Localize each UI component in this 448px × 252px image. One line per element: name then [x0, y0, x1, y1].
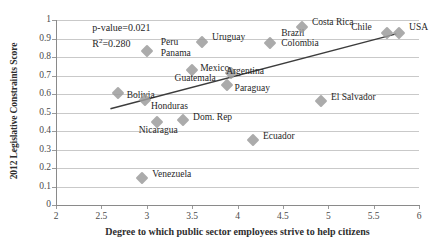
x-tick-label: 2.5 — [86, 211, 116, 221]
y-tick-label: 0.9 — [25, 34, 51, 43]
y-tick-label: 0.5 — [25, 108, 51, 117]
data-point-label: USA — [409, 22, 428, 32]
data-point-label: Panama — [161, 48, 191, 58]
y-tick-label: 0.2 — [25, 163, 51, 172]
gridline — [56, 20, 419, 21]
x-tick-label: 3 — [132, 211, 162, 221]
data-point-label: Ecuador — [263, 131, 295, 141]
data-point-marker — [140, 44, 153, 57]
scatter-chart: 2012 Legislative Constraints Score Degre… — [0, 0, 448, 252]
gridline — [56, 150, 419, 151]
data-point-label: Dom. Rep — [193, 112, 232, 122]
y-tick-label: 0.4 — [25, 126, 51, 135]
data-point-label: Argentina — [226, 66, 264, 76]
data-point-marker — [247, 134, 260, 147]
data-point-label: Paraguay — [235, 83, 270, 93]
x-tick-label: 4 — [223, 211, 253, 221]
y-tick-label: 0 — [25, 200, 51, 209]
y-axis-title: 2012 Legislative Constraints Score — [9, 11, 19, 211]
x-tick-label: 5.5 — [359, 211, 389, 221]
gridline — [56, 57, 419, 58]
data-point-label: Peru — [161, 37, 178, 47]
y-tick-label: 0.1 — [25, 182, 51, 191]
gridline — [56, 168, 419, 169]
data-point-marker — [393, 27, 406, 40]
y-tick-label: 0.8 — [25, 52, 51, 61]
gridline — [56, 113, 419, 114]
data-point-marker — [315, 95, 328, 108]
data-point-label: Chile — [351, 22, 372, 32]
x-axis-title: Degree to which public sector employees … — [56, 226, 419, 237]
x-tick-label: 5 — [313, 211, 343, 221]
data-point-marker — [177, 114, 190, 127]
x-tick-label: 4.5 — [268, 211, 298, 221]
data-point-label: Colombia — [281, 38, 318, 48]
x-tick-label: 3.5 — [177, 211, 207, 221]
x-axis-line — [56, 205, 420, 206]
stat-annotation: p-value=0.021 — [92, 22, 150, 33]
x-tick-label: 6 — [404, 211, 434, 221]
data-point-marker — [136, 172, 149, 185]
stat-annotation: R2=0.280 — [92, 37, 130, 49]
data-point-marker — [220, 78, 233, 91]
y-tick-label: 1 — [25, 15, 51, 24]
data-point-label: El Salvador — [331, 92, 376, 102]
data-point-label: Nicaragua — [139, 125, 178, 135]
data-point-label: Venezuela — [152, 169, 191, 179]
data-point-label: Costa Rica — [312, 17, 353, 27]
gridline — [56, 131, 419, 132]
y-tick-label: 0.3 — [25, 145, 51, 154]
y-tick-label: 0.7 — [25, 71, 51, 80]
data-point-label: Guatemala — [175, 73, 216, 83]
data-point-label: Uruguay — [212, 32, 245, 42]
x-tick-label: 2 — [41, 211, 71, 221]
gridline — [56, 187, 419, 188]
data-point-marker — [111, 87, 124, 100]
y-axis-line — [56, 20, 57, 206]
y-tick-label: 0.6 — [25, 89, 51, 98]
data-point-label: Honduras — [151, 101, 188, 111]
